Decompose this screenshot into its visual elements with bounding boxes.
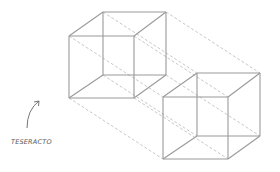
cube-a-edge <box>134 75 166 98</box>
diagram-canvas <box>0 0 280 172</box>
connector-edge <box>103 75 197 136</box>
cube-a-edge <box>69 75 103 98</box>
cube-a-edge <box>134 12 166 36</box>
tesseract-diagram: TESERACTO <box>0 0 280 172</box>
curved-arrow-icon <box>27 101 39 128</box>
cube-b-edge <box>228 136 260 159</box>
connector-edge <box>166 12 260 73</box>
cube-a <box>69 12 166 98</box>
connector-edge <box>69 98 163 159</box>
cube-a-edge <box>69 12 103 36</box>
connector-edge <box>134 98 228 159</box>
connector-edges <box>69 12 260 159</box>
cube-b-edge <box>228 73 260 97</box>
cube-b-edge <box>163 136 197 159</box>
tesseract-label: TESERACTO <box>11 138 52 146</box>
connector-edge <box>103 12 197 73</box>
